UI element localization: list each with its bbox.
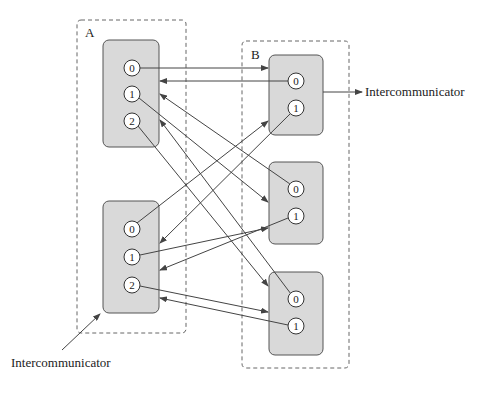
arrows-layer — [137, 68, 291, 325]
rank-label: 0 — [129, 223, 135, 235]
group-label: A — [85, 25, 95, 40]
rank-label: 1 — [293, 102, 299, 114]
rank-label: 0 — [293, 293, 299, 305]
rank-label: 1 — [293, 210, 299, 222]
rank-label: 0 — [293, 75, 299, 87]
process-box — [269, 55, 323, 135]
process-box — [269, 272, 323, 355]
annotations-layer: IntercommunicatorIntercommunicator — [11, 84, 465, 370]
annotation-arrow — [62, 314, 100, 350]
process-box — [269, 162, 323, 244]
intercommunicator-label: Intercommunicator — [365, 84, 465, 99]
rank-label: 1 — [129, 251, 135, 263]
rank-label: 0 — [129, 62, 135, 74]
rank-label: 0 — [293, 183, 299, 195]
rank-label: 1 — [293, 320, 299, 332]
groups-layer: AB — [77, 20, 349, 368]
group-label: B — [251, 47, 260, 62]
rank-label: 2 — [129, 115, 135, 127]
rank-label: 1 — [129, 88, 135, 100]
message-arrow — [160, 218, 288, 270]
intercommunicator-diagram: AB 012012010101 IntercommunicatorInterco… — [0, 0, 484, 396]
rank-label: 2 — [129, 279, 135, 291]
intercommunicator-label: Intercommunicator — [11, 355, 111, 370]
message-arrow — [139, 98, 268, 202]
